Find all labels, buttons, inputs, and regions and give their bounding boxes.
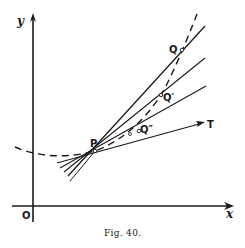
y-axis-label: y xyxy=(16,14,25,28)
point-q-marker xyxy=(180,48,184,52)
tangent-label: T xyxy=(207,119,214,130)
origin-label: O xyxy=(22,210,31,221)
point-intermediate-marker xyxy=(129,133,132,136)
x-axis-label: x xyxy=(225,207,234,221)
point-q-prime-label: Q′ xyxy=(163,92,175,103)
diagram-canvas: y x O P Q Q′ Q″ T Fig. 40. xyxy=(0,0,245,248)
point-q-label: Q xyxy=(169,44,178,55)
y-axis xyxy=(30,13,36,222)
figure-40: y x O P Q Q′ Q″ T Fig. 40. xyxy=(0,0,245,248)
point-p-marker xyxy=(93,149,97,153)
x-axis xyxy=(12,202,234,210)
point-p-label: P xyxy=(90,138,97,149)
secant-pq xyxy=(68,26,205,176)
figure-caption: Fig. 40. xyxy=(104,228,141,238)
point-q-double-prime-label: Q″ xyxy=(140,124,154,135)
